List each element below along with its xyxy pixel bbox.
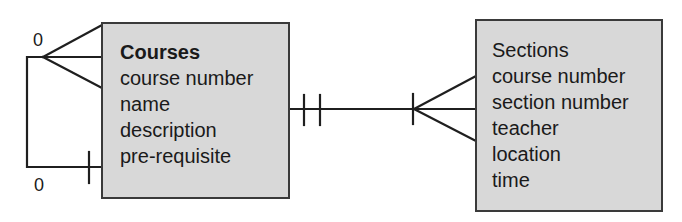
entity-title: Sections [492, 37, 629, 63]
entity-courses-text: Courses course number name description p… [120, 39, 253, 169]
entity-attribute: pre-requisite [120, 143, 253, 169]
recursive-relationship-line [27, 57, 102, 167]
entity-sections-text: Sections course number section number te… [492, 37, 629, 193]
entity-attribute: course number [492, 63, 629, 89]
crows-foot-many-icon [43, 25, 102, 88]
entity-attribute: description [120, 117, 253, 143]
entity-title: Courses [120, 39, 253, 65]
entity-attribute: location [492, 141, 629, 167]
cardinality-label-bottom: 0 [34, 176, 44, 194]
entity-attribute: teacher [492, 115, 629, 141]
entity-attribute: time [492, 167, 629, 193]
entity-attribute: name [120, 91, 253, 117]
entity-attribute: section number [492, 89, 629, 115]
cardinality-label-top: 0 [33, 31, 43, 49]
entity-attribute: course number [120, 65, 253, 91]
er-diagram: Courses course number name description p… [0, 0, 682, 222]
